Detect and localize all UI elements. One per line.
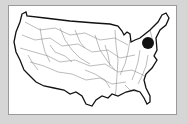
us-outline	[14, 12, 169, 106]
river-network	[20, 22, 152, 96]
location-marker-dot	[142, 37, 154, 49]
us-river-map	[0, 0, 187, 124]
